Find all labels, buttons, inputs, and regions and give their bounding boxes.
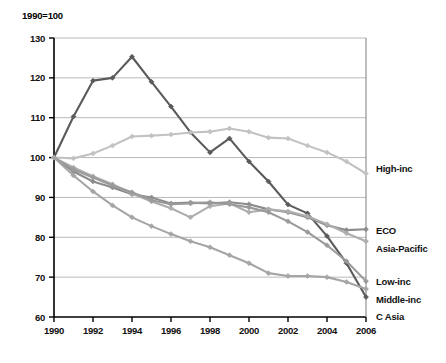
series-label-low-inc: Low-inc — [376, 276, 411, 287]
data-point-marker — [169, 132, 174, 137]
line-chart-plot: 60708090100110120130 1990199219941996199… — [0, 0, 446, 363]
data-point-marker — [305, 273, 310, 278]
x-axis-label: 2006 — [356, 325, 376, 336]
y-axis-label: 60 — [35, 312, 45, 323]
data-point-marker — [227, 126, 232, 131]
y-axis-tick-labels: 60708090100110120130 — [30, 33, 45, 323]
x-axis-label: 2000 — [239, 325, 259, 336]
series-label-eco: ECO — [376, 225, 396, 236]
y-axis-label: 120 — [30, 72, 45, 83]
y-axis-label: 70 — [35, 272, 45, 283]
x-axis-label: 1990 — [44, 325, 64, 336]
data-point-marker — [247, 129, 252, 134]
series-end-labels: High-incECOAsia-PacificLow-incMiddle-inc… — [376, 163, 427, 322]
series-label-high-inc: High-inc — [376, 163, 412, 174]
data-point-marker — [286, 273, 291, 278]
series-c-asia — [52, 54, 369, 299]
gridlines — [54, 38, 366, 277]
y-axis-label: 110 — [31, 112, 45, 123]
chart-container: 1990=100 60708090100110120130 1990199219… — [0, 0, 446, 363]
data-point-marker — [266, 135, 271, 140]
series-line — [54, 158, 366, 282]
data-point-marker — [208, 129, 213, 134]
y-axis-label: 100 — [30, 152, 45, 163]
series-line — [54, 57, 366, 297]
series-label-asia-pacific: Asia-Pacific — [376, 243, 427, 254]
x-axis-label: 1998 — [200, 325, 220, 336]
y-axis-label: 80 — [35, 232, 45, 243]
series-line — [54, 158, 366, 231]
series-label-middle-inc: Middle-inc — [376, 294, 421, 305]
data-point-marker — [71, 156, 76, 161]
series-line — [54, 158, 366, 290]
y-axis-label: 130 — [30, 33, 45, 44]
x-axis-label: 2002 — [278, 325, 298, 336]
x-axis-label: 1992 — [83, 325, 103, 336]
data-point-marker — [149, 133, 154, 138]
x-axis-tick-labels: 199019921994199619982000200220042006 — [44, 325, 376, 336]
y-axis-label: 90 — [35, 192, 45, 203]
data-point-marker — [364, 227, 369, 232]
data-series-group — [52, 54, 369, 299]
series-low-inc — [52, 155, 369, 284]
data-point-marker — [325, 275, 330, 280]
x-axis-label: 2004 — [317, 325, 338, 336]
x-axis-label: 1994 — [122, 325, 143, 336]
series-label-c-asia: C Asia — [376, 311, 405, 322]
x-axis-label: 1996 — [161, 325, 181, 336]
